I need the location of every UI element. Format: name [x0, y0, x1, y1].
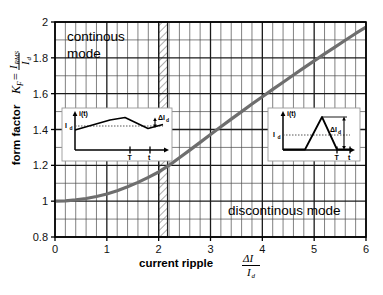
continuous-mode-label-line2: mode — [67, 46, 101, 61]
chart-figure: 0123456 0.811.21.41.61.82 continous mode… — [0, 0, 383, 295]
y-tick-label: 1.8 — [33, 52, 48, 64]
y-tick-label: 1.2 — [33, 159, 48, 171]
x-axis-fraction-denominator-sub: d — [252, 272, 256, 280]
inset-left-delta-sub: d — [166, 117, 169, 123]
y-tick-label: 0.8 — [33, 231, 48, 243]
y-tick-label: 1 — [42, 195, 48, 207]
y-axis-fraction-denominator-sub: d — [25, 57, 33, 61]
inset-left-delta-label: ΔI — [158, 114, 165, 121]
y-axis-equals: = — [9, 73, 23, 80]
x-tick-label: 2 — [156, 243, 162, 255]
inset-left-dc-level-label: I — [65, 122, 67, 129]
inset-right-period-label: T — [335, 154, 340, 161]
x-tick-label: 1 — [104, 243, 110, 255]
inset-left-period-label: T — [128, 154, 133, 161]
x-tick-label: 3 — [207, 243, 213, 255]
x-tick-label: 5 — [311, 243, 317, 255]
y-axis-symbol-sub: F — [16, 81, 25, 87]
inset-discontinuous-waveform: i(t) I d ΔI d T t — [268, 108, 360, 161]
discontinuous-mode-label: discontinous mode — [228, 203, 341, 218]
y-tick-label: 1.4 — [33, 124, 48, 136]
inset-continuous-waveform: i(t) I d ΔI d T t — [62, 108, 172, 161]
inset-right-delta-label: ΔI — [330, 126, 337, 133]
y-tick-label: 2 — [42, 16, 48, 28]
inset-right-dc-level-label: I — [273, 131, 275, 138]
y-tick-label: 1.6 — [33, 88, 48, 100]
continuous-mode-label-line1: continous — [67, 29, 125, 44]
inset-left-dc-level-sub: d — [70, 125, 73, 131]
inset-right-delta-sub: d — [338, 129, 341, 135]
inset-right-dc-level-sub: d — [278, 134, 281, 140]
inset-left-y-axis-label: i(t) — [79, 110, 88, 118]
x-tick-label: 6 — [363, 243, 369, 255]
x-tick-label: 4 — [259, 243, 265, 255]
x-axis-fraction-numerator: ΔI — [242, 252, 254, 264]
x-axis-title-text: current ripple — [139, 257, 213, 269]
form-factor-chart: 0123456 0.811.21.41.61.82 continous mode… — [0, 0, 383, 295]
y-axis-title-text: form factor — [10, 104, 22, 165]
x-tick-label: 0 — [52, 243, 58, 255]
inset-right-y-axis-label: i(t) — [287, 110, 296, 118]
